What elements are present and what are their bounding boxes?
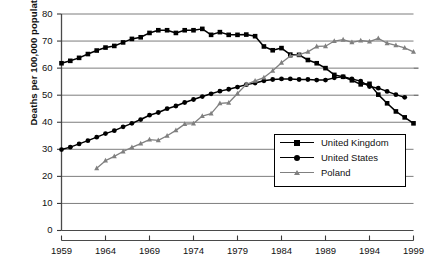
data-point-marker <box>147 113 152 118</box>
data-point-marker <box>279 77 284 82</box>
x-axis-tick-label: 1979 <box>218 246 258 256</box>
data-point-marker <box>411 121 416 126</box>
data-point-marker <box>358 79 363 84</box>
legend-item-label: United Kingdom <box>314 137 389 148</box>
data-point-marker <box>138 117 143 122</box>
data-point-marker <box>209 33 214 38</box>
data-point-marker <box>226 33 231 38</box>
data-point-marker <box>297 77 302 82</box>
data-point-marker <box>121 40 126 45</box>
data-point-marker <box>226 87 231 92</box>
data-point-marker <box>376 92 381 97</box>
data-point-marker <box>235 85 240 90</box>
data-point-marker <box>112 128 117 133</box>
data-point-marker <box>402 115 407 120</box>
legend-item-label: Poland <box>314 167 351 178</box>
legend-item: United Kingdom <box>275 135 405 150</box>
legend-triangle-marker-icon <box>280 167 314 179</box>
y-axis-tick-label: 20 <box>27 171 53 181</box>
chart-plot-svg <box>0 0 427 262</box>
data-point-marker <box>394 92 399 97</box>
legend-item-label: United States <box>314 152 378 163</box>
data-point-marker <box>323 66 328 71</box>
data-point-marker <box>94 135 99 140</box>
legend-square-marker-icon <box>280 137 314 149</box>
series-line <box>62 29 414 123</box>
data-point-marker <box>376 36 381 41</box>
data-point-marker <box>332 75 337 80</box>
data-point-marker <box>103 45 108 50</box>
data-point-marker <box>182 28 187 33</box>
x-axis-tick-label: 1984 <box>262 246 302 256</box>
data-point-marker <box>174 104 179 109</box>
data-point-marker <box>130 121 135 126</box>
data-point-marker <box>314 61 319 66</box>
data-point-marker <box>86 138 91 143</box>
data-point-marker <box>218 89 223 94</box>
data-point-marker <box>156 110 161 115</box>
y-axis-tick-label: 0 <box>27 225 53 235</box>
data-point-marker <box>341 37 346 42</box>
data-point-marker <box>103 131 108 136</box>
chart-container: Deaths per 100,000 population 0102030405… <box>0 0 427 262</box>
y-axis-tick-label: 50 <box>27 90 53 100</box>
data-point-marker <box>218 30 223 35</box>
data-point-marker <box>165 28 170 33</box>
data-point-marker <box>385 89 390 94</box>
data-point-marker <box>200 27 205 32</box>
data-point-marker <box>200 94 205 99</box>
data-point-marker <box>112 44 117 49</box>
x-axis-tick-label: 1974 <box>174 246 214 256</box>
y-axis-tick-label: 80 <box>27 9 53 19</box>
data-point-marker <box>209 91 214 96</box>
data-point-marker <box>270 77 275 82</box>
y-axis-tick-label: 60 <box>27 63 53 73</box>
data-point-marker <box>68 59 73 64</box>
chart-axes <box>57 14 419 241</box>
data-point-marker <box>314 78 319 83</box>
data-point-marker <box>77 142 82 147</box>
legend-item: Poland <box>275 165 405 180</box>
data-point-marker <box>235 33 240 38</box>
x-axis-tick-label: 1959 <box>42 246 82 256</box>
y-axis-tick-label: 30 <box>27 144 53 154</box>
legend-circle-marker-icon <box>280 152 314 164</box>
data-point-marker <box>350 77 355 82</box>
data-point-marker <box>244 32 249 37</box>
x-axis-tick-label: 1964 <box>86 246 126 256</box>
data-point-marker <box>358 38 363 43</box>
x-axis-tick-label: 1989 <box>306 246 346 256</box>
chart-legend: United KingdomUnited StatesPoland <box>274 134 406 187</box>
data-point-marker <box>156 28 161 33</box>
data-point-marker <box>385 101 390 106</box>
data-point-marker <box>376 86 381 91</box>
data-point-marker <box>306 77 311 82</box>
data-point-marker <box>68 145 73 150</box>
data-point-marker <box>394 109 399 114</box>
data-point-marker <box>121 124 126 129</box>
data-point-marker <box>191 28 196 33</box>
data-point-marker <box>147 31 152 36</box>
data-point-marker <box>367 84 372 89</box>
data-point-marker <box>86 52 91 57</box>
data-point-marker <box>341 74 346 79</box>
data-point-marker <box>77 56 82 61</box>
y-axis-tick-label: 10 <box>27 198 53 208</box>
data-point-marker <box>270 48 275 53</box>
data-point-marker <box>130 37 135 42</box>
data-point-marker <box>306 58 311 63</box>
data-point-marker <box>59 147 64 152</box>
data-point-marker <box>94 48 99 53</box>
x-axis-tick-label: 1994 <box>350 246 390 256</box>
data-point-marker <box>59 61 64 66</box>
data-point-marker <box>165 106 170 111</box>
data-point-marker <box>288 77 293 82</box>
data-point-marker <box>174 31 179 36</box>
data-point-marker <box>323 78 328 83</box>
y-axis-tick-label: 40 <box>27 117 53 127</box>
y-axis-tick-label: 70 <box>27 36 53 46</box>
data-point-marker <box>262 44 267 49</box>
data-point-marker <box>402 95 407 100</box>
x-axis-tick-label: 1999 <box>394 246 427 256</box>
data-point-marker <box>138 35 143 40</box>
